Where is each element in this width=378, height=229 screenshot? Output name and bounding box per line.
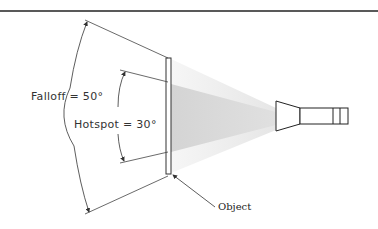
falloff-arc-bottom [74,146,89,212]
object-plane [166,58,171,174]
falloff-label: Falloff = 50° [31,90,103,103]
spotlight-diagram: Falloff = 50° Hotspot = 30° Object [0,0,378,229]
hotspot-line-top [120,70,168,82]
hotspot-arc-top [118,72,125,107]
falloff-arc-top [70,22,87,88]
hotspot-label: Hotspot = 30° [74,118,157,131]
object-leader [173,175,215,207]
falloff-line-top [85,20,168,58]
flashlight-icon [276,101,348,131]
hotspot-line-bottom [120,152,168,163]
hotspot-arc-bottom [118,134,124,161]
falloff-line-bottom [85,176,168,214]
object-label: Object [218,201,251,212]
